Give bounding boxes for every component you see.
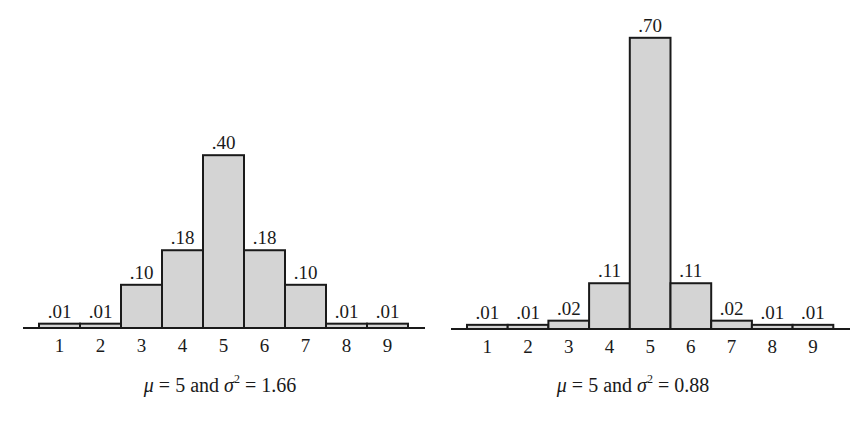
value-label: .02: [557, 298, 581, 319]
histogram-right-plot: .011.012.023.114.705.116.027.018.019: [432, 0, 863, 360]
value-label: .11: [598, 260, 621, 281]
value-label: .11: [679, 260, 702, 281]
x-tick-label: 8: [768, 336, 778, 357]
caption-right-eq1: = 5 and: [567, 374, 637, 396]
x-tick-label: 1: [55, 335, 65, 356]
histogram-right: .011.012.023.114.705.116.027.018.019: [432, 0, 863, 423]
value-label: .02: [720, 298, 744, 319]
x-tick-label: 8: [342, 335, 352, 356]
value-label: .01: [89, 301, 113, 322]
bar-7: [711, 321, 752, 329]
value-label: .70: [638, 15, 662, 36]
caption-left: μ = 5 and σ2 = 1.66: [120, 372, 320, 397]
x-tick-label: 9: [383, 335, 393, 356]
caption-right: μ = 5 and σ2 = 0.88: [533, 372, 733, 397]
bar-5: [203, 155, 244, 328]
bar-6: [244, 250, 285, 328]
bar-5: [630, 38, 671, 329]
bar-4: [589, 283, 630, 329]
value-label: .01: [335, 301, 359, 322]
histogram-left-plot: .011.012.103.184.405.186.107.018.019: [0, 0, 432, 360]
value-label: .01: [516, 302, 540, 323]
value-label: .01: [475, 302, 499, 323]
x-tick-label: 5: [645, 336, 655, 357]
caption-left-eq1: = 5 and: [154, 374, 224, 396]
value-label: .01: [801, 302, 825, 323]
x-tick-label: 1: [483, 336, 493, 357]
x-tick-label: 2: [96, 335, 106, 356]
caption-left-eq2: = 1.66: [240, 374, 296, 396]
bar-3: [121, 285, 162, 328]
value-label: .10: [130, 262, 154, 283]
x-tick-label: 6: [260, 335, 270, 356]
value-label: .18: [171, 227, 195, 248]
value-label: .01: [48, 301, 72, 322]
value-label: .01: [760, 302, 784, 323]
value-label: .40: [212, 132, 236, 153]
x-tick-label: 2: [523, 336, 533, 357]
x-tick-label: 6: [686, 336, 696, 357]
sigma-symbol: σ: [637, 374, 647, 396]
value-label: .01: [376, 301, 400, 322]
bar-6: [671, 283, 712, 329]
bar-3: [548, 321, 589, 329]
value-label: .10: [294, 262, 318, 283]
x-tick-label: 3: [137, 335, 147, 356]
x-tick-label: 4: [605, 336, 615, 357]
x-tick-label: 3: [564, 336, 574, 357]
value-label: .18: [253, 227, 277, 248]
sigma-symbol: σ: [224, 374, 234, 396]
x-tick-label: 5: [219, 335, 229, 356]
mu-symbol: μ: [557, 374, 567, 396]
x-tick-label: 9: [808, 336, 818, 357]
mu-symbol: μ: [144, 374, 154, 396]
bar-7: [285, 285, 326, 328]
bar-4: [162, 250, 203, 328]
x-tick-label: 7: [301, 335, 311, 356]
x-tick-label: 7: [727, 336, 737, 357]
histogram-left: .011.012.103.184.405.186.107.018.019: [0, 0, 432, 423]
x-tick-label: 4: [178, 335, 188, 356]
caption-right-eq2: = 0.88: [653, 374, 709, 396]
